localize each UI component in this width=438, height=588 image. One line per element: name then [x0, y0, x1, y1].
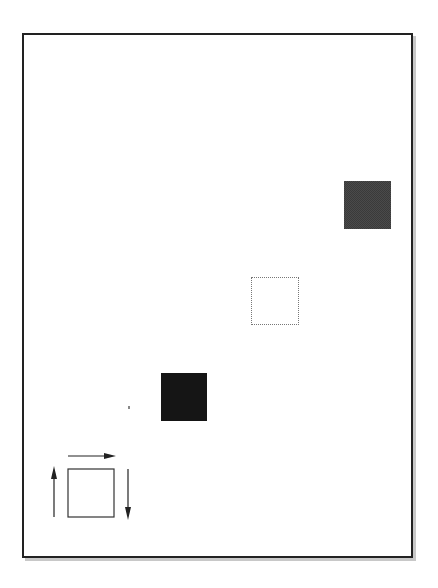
square-outline-icon — [68, 469, 114, 517]
arrow-up-icon — [51, 466, 57, 517]
square-middle-dotted — [251, 277, 299, 325]
arrow-down-icon — [125, 469, 131, 520]
arrow-right-icon — [68, 453, 116, 459]
move-square-icon — [48, 450, 136, 532]
square-start-dark — [344, 181, 391, 229]
stray-dot — [128, 406, 130, 409]
square-end-black — [161, 373, 207, 421]
